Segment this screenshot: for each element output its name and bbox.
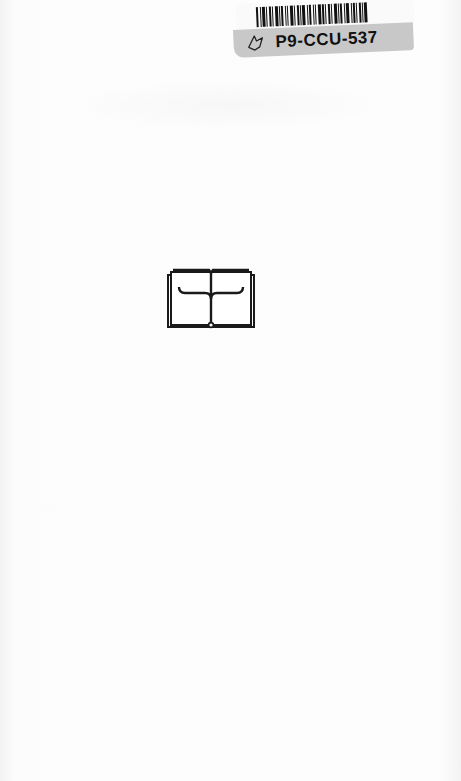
sticker-code: P9-CCU-537 — [275, 28, 378, 52]
library-barcode-sticker: P9-CCU-537 — [233, 4, 416, 58]
bird-outline-icon — [245, 33, 266, 54]
open-book-icon — [165, 265, 257, 331]
book-page: P9-CCU-537 — [0, 0, 461, 781]
bleed-through-shadow — [70, 80, 390, 130]
